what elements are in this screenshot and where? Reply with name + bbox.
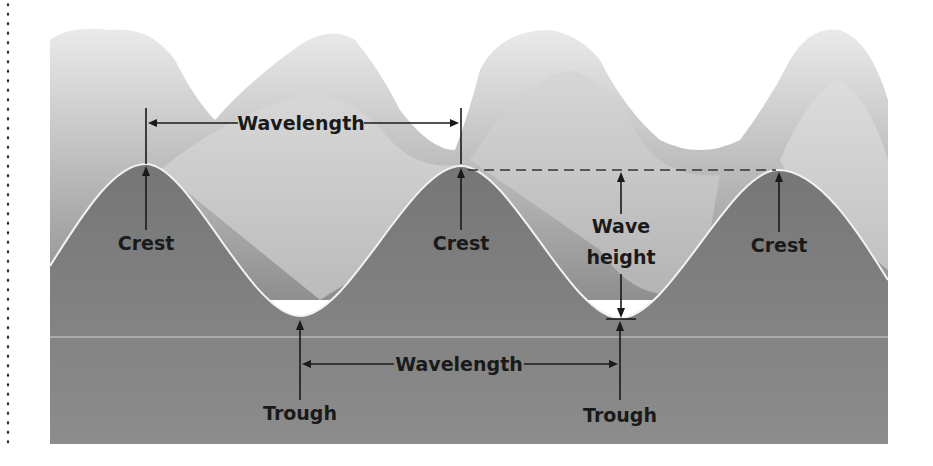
wavelength-top-label: Wavelength xyxy=(237,112,365,134)
arrow-down-icon xyxy=(617,308,625,318)
wave-height-label-line2: height xyxy=(586,246,655,268)
wavelength-bottom-label: Wavelength xyxy=(395,353,523,375)
wave-height-label-line1: Wave xyxy=(592,215,650,237)
crest-1-label: Crest xyxy=(118,232,175,254)
crest-3-label: Crest xyxy=(751,234,808,256)
water-cross-section xyxy=(50,164,888,444)
trough-1-label: Trough xyxy=(263,402,337,424)
wave-diagram: Wavelength Crest Crest Crest Wave height… xyxy=(0,0,933,466)
arrow-right-icon xyxy=(450,119,459,127)
trough-2-label: Trough xyxy=(583,404,657,426)
crest-2-label: Crest xyxy=(433,232,490,254)
